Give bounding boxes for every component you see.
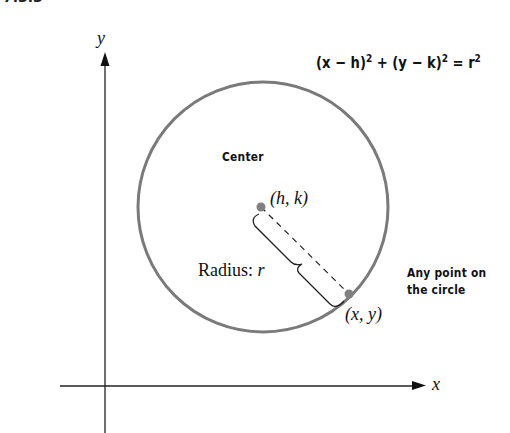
equation-plus: + — [372, 53, 392, 72]
x-axis-arrow-icon — [412, 381, 426, 390]
circle-equation: (x − h)2 + (y − k)2 = r2 — [316, 52, 481, 72]
point-coordinates: (x, y) — [345, 304, 382, 325]
point-title: Any point on the circle — [407, 264, 486, 298]
y-axis-arrow-icon — [101, 52, 110, 66]
center-point — [257, 203, 266, 212]
x-axis-label: x — [432, 374, 440, 395]
radius-variable: r — [258, 260, 265, 280]
equation-exp-3: 2 — [475, 52, 481, 65]
center-coordinates: (h, k) — [270, 188, 308, 209]
point-title-line-2: the circle — [407, 281, 486, 298]
circle-diagram: 7.3.3 y x (x − h)2 + (y − k)2 = r2 Cente… — [0, 0, 510, 433]
radius-brace — [253, 214, 344, 306]
equation-rhs: = r — [448, 53, 475, 72]
equation-term-x: (x − h) — [316, 53, 366, 72]
point-title-line-1: Any point on — [407, 264, 486, 281]
radius-label: Radius: r — [198, 260, 265, 281]
center-title: Center — [222, 149, 264, 164]
radius-prefix: Radius: — [198, 260, 258, 280]
center-coords-text: (h, k) — [270, 188, 308, 208]
equation-term-y: (y − k) — [392, 53, 441, 72]
header-fragment: 7.3.3 — [3, 0, 43, 5]
radius-line — [261, 207, 349, 294]
circle-point — [345, 290, 354, 299]
y-axis-label: y — [97, 28, 105, 49]
